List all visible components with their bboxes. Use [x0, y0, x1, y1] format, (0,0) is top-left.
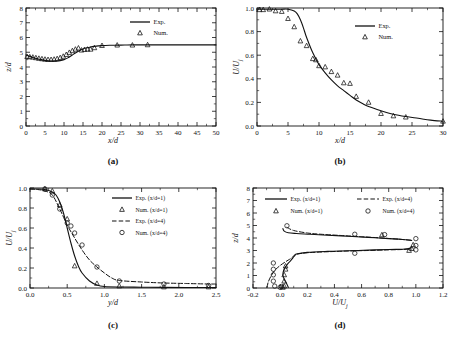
panel-b: 0510152025300.00.20.40.60.81.0U/Uj Exp.N… — [227, 0, 453, 178]
y-tick-label: 8 — [247, 185, 251, 193]
plot-frame — [257, 8, 443, 126]
y-axis-label: U/Uj — [232, 59, 243, 75]
panel-b-plot: 0510152025300.00.20.40.60.81.0U/Uj Exp.N… — [227, 0, 453, 152]
legend-label: Exp. — [379, 22, 391, 29]
panel-a-caption: (a) — [0, 156, 226, 166]
panel-a-xlabel: x/d — [0, 136, 226, 145]
legend-label: Num. (x/d=1) — [291, 208, 323, 215]
y-tick-label: 1 — [247, 272, 251, 280]
y-tick-label: 1.0 — [18, 185, 27, 193]
y-tick-label: 8 — [20, 5, 24, 13]
panel-d-caption: (d) — [227, 320, 453, 330]
y-tick-label: 3 — [247, 247, 251, 255]
y-tick-label: 0.0 — [18, 285, 27, 293]
triangle-marker — [292, 24, 297, 28]
legend-label: Exp. — [154, 18, 166, 25]
panel-d: -0.20.00.20.40.60.81.01.2012345678z/d Ex… — [227, 180, 453, 357]
triangle-marker — [329, 69, 334, 73]
y-tick-label: 0.8 — [18, 205, 27, 213]
triangle-marker — [76, 46, 81, 50]
circle-marker — [414, 236, 418, 240]
y-tick-label: 0.6 — [18, 225, 27, 233]
triangle-marker — [323, 64, 328, 68]
legend-label: Num. (x/d=1) — [136, 207, 168, 214]
y-tick-label: 7 — [20, 19, 24, 27]
y-tick-label: 5 — [247, 222, 251, 230]
y-tick-label: 6 — [20, 34, 24, 42]
circle-marker — [271, 267, 275, 271]
triangle-marker — [72, 263, 77, 267]
triangle-marker — [354, 94, 359, 98]
panel-b-xlabel: x/d — [227, 136, 453, 145]
triangle-marker — [411, 242, 416, 246]
legend-label: Num. — [379, 33, 394, 40]
legend-label: Num. (x/d=4) — [136, 230, 168, 237]
y-tick-label: 1 — [20, 108, 24, 116]
panel-d-xlabel-text: U/U — [332, 298, 346, 307]
panel-c-xlabel: y/d — [0, 298, 226, 307]
triangle-marker — [366, 100, 371, 104]
triangle-marker — [304, 43, 309, 47]
y-tick-label: 7 — [247, 197, 251, 205]
y-axis-label: z/d — [4, 61, 13, 72]
y-tick-label: 4 — [20, 64, 24, 72]
circle-marker — [72, 231, 76, 235]
y-tick-label: 2 — [20, 93, 24, 101]
y-tick-label: 6 — [247, 210, 251, 218]
circle-marker — [353, 232, 357, 236]
data-line — [26, 45, 216, 61]
panel-b-caption: (b) — [227, 156, 453, 166]
y-tick-label: 0.0 — [245, 123, 254, 131]
y-tick-label: 0.4 — [245, 75, 254, 83]
data-line — [283, 229, 412, 241]
triangle-marker — [282, 279, 287, 283]
y-tick-label: 4 — [247, 235, 251, 243]
y-tick-label: 0.2 — [245, 99, 254, 107]
plot-frame — [30, 188, 216, 288]
plot-frame — [253, 188, 443, 288]
triangle-marker — [65, 216, 70, 220]
triangle-marker — [286, 16, 291, 20]
y-tick-label: 0.4 — [18, 245, 27, 253]
legend-label: Exp. (x/d=4) — [136, 218, 166, 225]
circle-marker — [80, 243, 84, 247]
y-axis-label: U/Uj — [5, 230, 16, 246]
data-line — [283, 247, 412, 288]
circle-marker — [69, 224, 73, 228]
legend-label: Exp. (x/d=4) — [383, 196, 413, 203]
panel-d-plot: -0.20.00.20.40.60.81.01.2012345678z/d Ex… — [227, 180, 453, 312]
panel-d-xlabel: U/Uj — [227, 298, 453, 309]
data-line — [257, 9, 443, 121]
panel-c-caption: (c) — [0, 320, 226, 330]
triangle-marker — [298, 38, 303, 42]
circle-marker — [271, 279, 275, 283]
triangle-marker — [335, 73, 340, 77]
y-tick-label: 0 — [20, 123, 24, 131]
circle-marker — [58, 207, 62, 211]
data-line — [30, 189, 216, 284]
legend-label: Num. (x/d=4) — [383, 208, 415, 215]
circle-marker — [353, 251, 357, 255]
y-tick-label: 0.2 — [18, 265, 27, 273]
panel-d-xlabel-sub: j — [346, 303, 348, 309]
plot-frame — [26, 8, 216, 126]
panel-c: 0.00.51.01.52.02.50.00.20.40.60.81.0U/Uj… — [0, 180, 226, 357]
figure-container: 05101520253035404550012345678z/d Exp.Num… — [0, 0, 453, 357]
circle-marker — [414, 248, 418, 252]
data-line — [267, 249, 412, 287]
y-tick-label: 3 — [20, 78, 24, 86]
panel-a: 05101520253035404550012345678z/d Exp.Num… — [0, 0, 226, 178]
triangle-marker — [341, 80, 346, 84]
y-axis-label: z/d — [231, 232, 240, 243]
y-tick-label: 0.8 — [245, 28, 254, 36]
y-tick-label: 2 — [247, 260, 251, 268]
y-tick-label: 0.6 — [245, 52, 254, 60]
data-line — [30, 189, 216, 288]
legend-label: Exp. (x/d=1) — [136, 195, 166, 202]
circle-marker — [271, 261, 275, 265]
y-tick-label: 1.0 — [245, 5, 254, 13]
y-tick-label: 5 — [20, 49, 24, 57]
panel-a-plot: 05101520253035404550012345678z/d Exp.Num… — [0, 0, 226, 152]
panel-c-plot: 0.00.51.01.52.02.50.00.20.40.60.81.0U/Uj… — [0, 180, 226, 312]
legend-label: Exp. (x/d=1) — [291, 196, 321, 203]
